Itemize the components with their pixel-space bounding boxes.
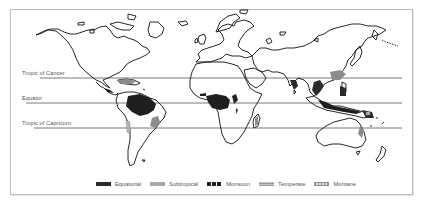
legend-label: Montane	[333, 181, 356, 187]
north-america-outline	[36, 26, 150, 88]
legend-label: Equatorial	[115, 181, 141, 187]
tasmania-outline	[356, 151, 360, 155]
montane-new-guinea-highlands	[366, 112, 370, 115]
british-isles-outline	[195, 34, 206, 44]
legend-item-subtropical: Subtropical	[150, 181, 198, 187]
subtropical-madagascar	[255, 116, 258, 126]
world-map	[0, 0, 422, 206]
svalbard-outline	[240, 10, 248, 14]
tropic-of-capricorn-label: Tropic of Capricorn	[22, 120, 71, 126]
map-legend: Equatorial Subtropical Monsoon Temperate…	[96, 180, 365, 188]
legend-label: Temperate	[278, 181, 305, 187]
monsoon-swatch-icon	[207, 182, 222, 187]
pacific-islands-outline	[370, 118, 384, 126]
central-america-outline	[96, 82, 118, 95]
legend-item-monsoon: Monsoon	[207, 181, 250, 187]
subtropical-swatch-icon	[150, 182, 165, 187]
legend-label: Monsoon	[226, 181, 250, 187]
equatorial-zones	[104, 88, 362, 116]
arctic-asia-islands-outline	[266, 32, 318, 44]
equatorial-amazon	[126, 94, 156, 116]
monsoon-zones	[290, 80, 374, 118]
equatorial-east-africa	[232, 94, 238, 114]
greenland-outline	[148, 22, 164, 38]
equatorial-indonesia	[318, 100, 362, 114]
monsoon-philippines	[340, 86, 346, 96]
scandinavia-outline	[216, 14, 240, 32]
legend-item-temperate: Temperate	[259, 181, 305, 187]
equatorial-west-africa	[200, 93, 206, 96]
temperate-swatch-icon	[259, 182, 274, 187]
montane-swatch-icon	[314, 182, 329, 187]
equator-label: Equator	[22, 95, 42, 101]
montane-andes	[126, 120, 130, 134]
subtropical-china	[330, 70, 346, 80]
subtropical-brazil	[150, 116, 160, 128]
falklands-outline	[142, 160, 145, 162]
monsoon-southeast-asia	[312, 80, 324, 96]
legend-label: Subtropical	[169, 181, 198, 187]
equatorial-swatch-icon	[96, 182, 111, 187]
equatorial-congo	[206, 94, 230, 110]
new-zealand-outline	[376, 146, 386, 162]
sri-lanka-outline	[294, 90, 296, 94]
legend-item-montane: Montane	[314, 181, 356, 187]
aleutians-outline	[382, 40, 398, 46]
legend-item-equatorial: Equatorial	[96, 181, 141, 187]
tropic-of-cancer-label: Tropic of Cancer	[22, 70, 65, 76]
